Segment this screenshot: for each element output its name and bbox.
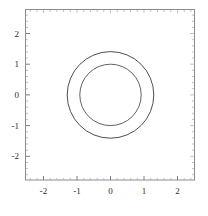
y-tick-label-neg2: -2 xyxy=(0,152,19,161)
plot-frame xyxy=(26,10,195,181)
x-tick-label-neg1: -1 xyxy=(73,187,81,196)
y-tick-label-2: 2 xyxy=(0,29,19,38)
plot-figure: -2 -1 0 1 2 2 1 0 -1 -2 xyxy=(0,0,208,216)
curve-inner-circle xyxy=(80,64,141,125)
plot-canvas xyxy=(0,0,208,216)
x-tick-label-neg2: -2 xyxy=(40,187,48,196)
y-tick-label-neg1: -1 xyxy=(0,121,19,130)
top-axis-ticks xyxy=(30,10,191,13)
y-tick-label-0: 0 xyxy=(0,90,19,99)
x-tick-label-1: 1 xyxy=(142,187,147,196)
right-axis-ticks xyxy=(190,15,194,175)
y-tick-label-1: 1 xyxy=(0,60,19,69)
x-tick-label-0: 0 xyxy=(108,187,113,196)
x-tick-label-2: 2 xyxy=(175,187,180,196)
